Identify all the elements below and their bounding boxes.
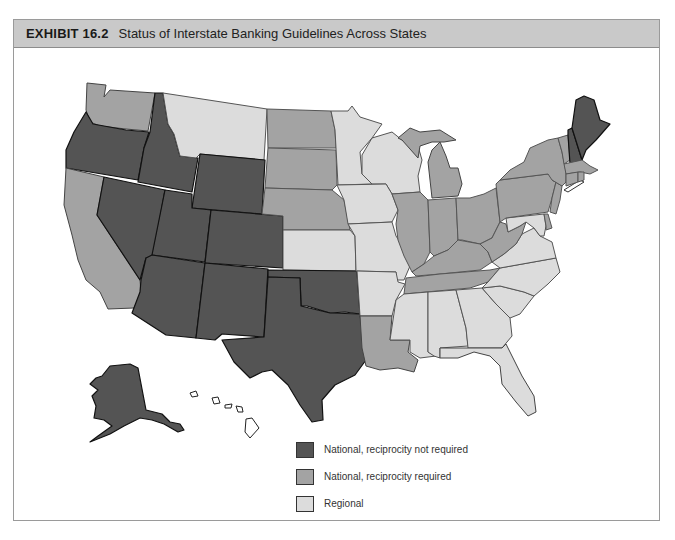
state-mt [163,93,267,160]
state-ri [578,172,584,182]
state-hi [190,391,259,438]
state-nm [196,263,268,340]
legend-label: National, reciprocity required [324,471,451,482]
state-mi [428,142,462,198]
legend-label: Regional [324,498,363,509]
state-ks [283,230,356,271]
state-fl [440,344,536,416]
legend-label: National, reciprocity not required [324,444,468,455]
legend-item-regional: Regional [296,490,468,517]
map-legend: National, reciprocity not required Natio… [296,436,468,517]
state-wy [192,154,265,214]
state-wa [86,83,155,131]
state-nd [267,109,336,148]
legend-swatch-dark [296,442,314,458]
state-ak [90,364,184,442]
legend-item-national-no-reciprocity: National, reciprocity not required [296,436,468,463]
state-co [205,210,283,268]
legend-swatch-light [296,496,314,512]
legend-swatch-medium [296,469,314,485]
state-sd [265,148,337,190]
legend-item-national-reciprocity: National, reciprocity required [296,463,468,490]
